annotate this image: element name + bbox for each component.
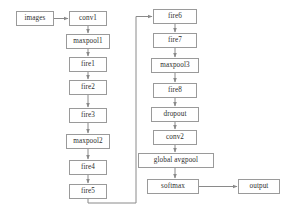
node-fire8[interactable]: fire8: [153, 83, 197, 98]
node-fire2[interactable]: fire2: [69, 80, 107, 95]
node-dropout[interactable]: dropout: [151, 107, 199, 122]
node-fire1[interactable]: fire1: [69, 57, 107, 72]
node-softmax[interactable]: softmax: [147, 179, 199, 194]
node-fire6[interactable]: fire6: [153, 9, 197, 24]
node-maxpool2[interactable]: maxpool2: [66, 134, 110, 149]
node-conv1[interactable]: conv1: [69, 11, 107, 26]
node-conv2[interactable]: conv2: [153, 130, 197, 145]
node-fire7[interactable]: fire7: [153, 33, 197, 48]
flowchart-diagram: images conv1 maxpool1 fire1 fire2 fire3 …: [0, 0, 292, 214]
node-maxpool3[interactable]: maxpool3: [151, 58, 199, 73]
node-global-avgpool[interactable]: global avgpool: [138, 153, 214, 168]
node-fire3[interactable]: fire3: [69, 108, 107, 123]
node-fire4[interactable]: fire4: [69, 160, 107, 175]
node-images[interactable]: images: [16, 11, 54, 26]
node-output[interactable]: output: [238, 179, 280, 194]
node-fire5[interactable]: fire5: [69, 184, 107, 199]
node-maxpool1[interactable]: maxpool1: [66, 34, 110, 49]
